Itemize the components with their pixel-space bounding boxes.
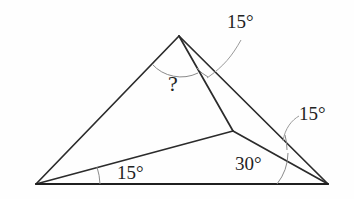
angle-label-right-upper: 15° [299,104,326,123]
arc-base-left-15 [97,167,100,184]
angle-label-base-left: 15° [117,163,144,182]
segment-apex-to-bottom-left [36,36,179,184]
unknown-angle-label: ? [168,73,178,95]
leader-line-apex-15 [207,40,241,78]
geometry-canvas [0,0,354,199]
segment-apex-to-interior [179,36,233,131]
geometry-figure: ? 15° 15° 15° 30° [0,0,354,199]
angle-label-base-right: 30° [235,154,262,173]
angle-label-apex-right: 15° [227,12,254,31]
